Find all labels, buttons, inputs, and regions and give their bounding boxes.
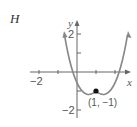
y-tick-label-2: 2: [68, 29, 74, 40]
vertex-point: [93, 88, 98, 93]
x-tick-label-neg2: −2: [30, 76, 43, 87]
curve-right-arrow-icon: [127, 31, 132, 38]
panel-label: H: [10, 13, 19, 24]
curve-left-arrow-icon: [63, 31, 68, 38]
y-tick-label-neg2: −2: [62, 105, 75, 116]
vertex-label: (1, −1): [88, 97, 117, 108]
parabola-curve: [65, 35, 128, 95]
x-axis-arrow-icon: [125, 70, 131, 75]
y-axis-arrow-icon: [75, 20, 80, 26]
x-axis-label: x: [127, 77, 132, 88]
chart-panel: H y x −2 2 −2 (1, −1): [0, 0, 137, 127]
